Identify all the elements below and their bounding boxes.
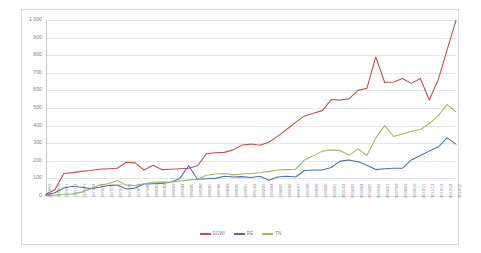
y-axis-tick-label: 800 [33,52,42,57]
x-axis-tick-label: 1994/95 [279,184,283,198]
x-axis-tick-label: 1992/93 [262,184,266,198]
x-axis-tick-label: 1987/88 [217,184,221,198]
x-axis-tick-label: 1975/76 [110,184,114,198]
x-axis-tick-label: 2005/06 [377,184,381,198]
x-axis-tick-label: 1988/89 [226,184,230,198]
x-axis-tick-label: 2013/14 [449,184,453,198]
x-axis-tick-label: 1974/75 [101,184,105,198]
x-axis-tick-label: 1979/80 [146,184,150,198]
legend-item-tn[interactable]: TN [262,232,281,237]
x-axis-tick-label: 2000/01 [333,184,337,198]
legend-swatch-icon [200,233,211,235]
y-axis-tick-label: 500 [33,105,42,110]
legend-swatch-icon [262,233,273,235]
x-axis-tick-label: 1982/83 [172,184,176,198]
x-axis-tick-label: 1970/71 [65,184,69,198]
chart-series-area [46,20,456,196]
x-axis-tick-label: 1997/98 [306,184,310,198]
x-axis-tick-label: 1973/74 [92,184,96,198]
y-axis-tick-label: 200 [33,158,42,163]
x-axis-tick-label: 2007/08 [395,184,399,198]
x-axis-tick-label: 1990/91 [244,184,248,198]
x-axis-tick-label: 2001/02 [342,184,346,198]
y-axis-labels: 1 0009008007006005004003002001000 [0,0,42,196]
x-axis-labels: 1968/691969/701970/711971/721972/731973/… [46,198,456,224]
x-axis-tick-label: 2011/12 [431,184,435,198]
legend-label: TN [275,232,281,237]
x-axis-tick-label: 1978/79 [137,184,141,198]
y-axis-tick-label: 900 [33,35,42,40]
x-axis-tick-label: 2012/13 [440,184,444,198]
y-axis-tick-label: 600 [33,87,42,92]
x-axis-tick-label: 2010/11 [422,184,426,198]
x-axis-tick-label: 1968/69 [48,184,52,198]
y-axis-tick-label: 400 [33,123,42,128]
x-axis-tick-label: 1969/70 [57,184,61,198]
legend-swatch-icon [234,233,245,235]
y-axis-tick-label: 300 [33,140,42,145]
x-axis-tick-label: 1999/00 [324,184,328,198]
x-axis-tick-label: 2006/07 [386,184,390,198]
x-axis-tick-label: 1980/81 [155,184,159,198]
x-axis-tick-label: 1983/84 [181,184,185,198]
x-axis-tick-label: 1991/92 [253,184,257,198]
y-axis-tick-label: 700 [33,70,42,75]
x-axis-tick-label: 2002/03 [351,184,355,198]
series-line-tn [46,104,456,195]
x-axis-tick-label: 1981/82 [163,184,167,198]
y-axis-tick-label: 100 [33,175,42,180]
legend-item-sgwi[interactable]: SGWI [200,232,225,237]
x-axis-tick-label: 1984/85 [190,184,194,198]
x-axis-tick-label: 1971/72 [74,184,78,198]
y-axis-tick-label: 0 [39,193,42,198]
x-axis-tick-label: 1972/73 [83,184,87,198]
x-axis-tick-label: 1989/90 [235,184,239,198]
x-axis-tick-label: 2009/10 [413,184,417,198]
x-axis-tick-label: 2004/05 [368,184,372,198]
x-axis-tick-label: 2008/09 [404,184,408,198]
legend-item-re[interactable]: RE [234,232,253,237]
x-axis-tick-label: 1976/77 [119,184,123,198]
legend-label: RE [247,232,253,237]
x-axis-tick-label: 2014/15 [458,184,462,198]
x-axis-tick-label: 1996/97 [297,184,301,198]
chart-legend: SGWIRETN [0,228,481,240]
x-axis-tick-label: 1986/87 [208,184,212,198]
x-axis-tick-label: 1995/96 [288,184,292,198]
x-axis-tick-label: 2003/04 [360,184,364,198]
x-axis-tick-label: 1985/86 [199,184,203,198]
x-axis-tick-label: 1998/99 [315,184,319,198]
x-axis-tick-label: 1993/94 [270,184,274,198]
x-axis-tick-label: 1977/78 [128,184,132,198]
legend-label: SGWI [213,232,225,237]
y-axis-tick-label: 1 000 [29,17,42,22]
